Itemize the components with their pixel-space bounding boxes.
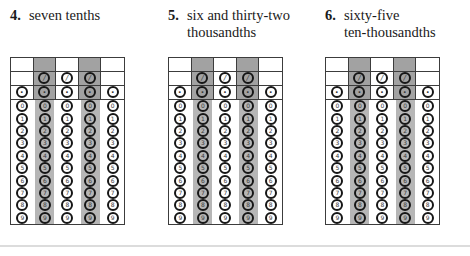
fraction-slash-bubble[interactable]: / <box>61 72 73 84</box>
digit-bubble-8[interactable]: 8 <box>39 199 51 211</box>
fraction-slash-bubble[interactable]: / <box>84 72 96 84</box>
decimal-point-bubble[interactable]: . <box>174 86 186 98</box>
digit-bubble-3[interactable]: 3 <box>16 137 28 149</box>
digit-bubble-1[interactable]: 1 <box>242 113 254 125</box>
digit-bubble-5[interactable]: 5 <box>422 162 434 174</box>
write-in-cell-c5[interactable] <box>259 58 282 71</box>
write-in-cell-c1[interactable] <box>169 58 192 71</box>
digit-bubble-7[interactable]: 7 <box>242 187 254 199</box>
digit-bubble-0[interactable]: 0 <box>265 100 277 112</box>
digit-bubble-7[interactable]: 7 <box>16 187 28 199</box>
fraction-slash-bubble[interactable]: / <box>38 72 50 84</box>
digit-bubble-6[interactable]: 6 <box>331 175 343 187</box>
digit-bubble-1[interactable]: 1 <box>61 113 73 125</box>
digit-bubble-2[interactable]: 2 <box>422 125 434 137</box>
digit-bubble-8[interactable]: 8 <box>354 199 366 211</box>
digit-bubble-9[interactable]: 9 <box>197 212 209 224</box>
digit-bubble-9[interactable]: 9 <box>331 212 343 224</box>
digit-bubble-5[interactable]: 5 <box>219 162 231 174</box>
digit-bubble-2[interactable]: 2 <box>16 125 28 137</box>
decimal-point-bubble[interactable]: . <box>61 86 73 98</box>
digit-bubble-7[interactable]: 7 <box>107 187 119 199</box>
digit-bubble-0[interactable]: 0 <box>376 100 388 112</box>
digit-bubble-8[interactable]: 8 <box>197 199 209 211</box>
decimal-point-bubble[interactable]: . <box>422 86 434 98</box>
write-in-cell-c1[interactable] <box>11 58 34 71</box>
digit-bubble-1[interactable]: 1 <box>107 113 119 125</box>
digit-bubble-3[interactable]: 3 <box>107 137 119 149</box>
digit-bubble-2[interactable]: 2 <box>331 125 343 137</box>
decimal-point-bubble[interactable]: . <box>376 86 388 98</box>
fraction-slash-bubble[interactable]: / <box>196 72 208 84</box>
digit-bubble-9[interactable]: 9 <box>174 212 186 224</box>
digit-bubble-6[interactable]: 6 <box>265 175 277 187</box>
digit-bubble-1[interactable]: 1 <box>16 113 28 125</box>
write-in-cell-c5[interactable] <box>416 58 439 71</box>
digit-bubble-3[interactable]: 3 <box>242 137 254 149</box>
write-in-cell-c4[interactable] <box>237 58 260 71</box>
digit-bubble-3[interactable]: 3 <box>354 137 366 149</box>
digit-bubble-1[interactable]: 1 <box>84 113 96 125</box>
digit-bubble-4[interactable]: 4 <box>39 150 51 162</box>
digit-bubble-2[interactable]: 2 <box>399 125 411 137</box>
write-in-cell-c5[interactable] <box>101 58 124 71</box>
digit-bubble-0[interactable]: 0 <box>399 100 411 112</box>
write-in-cell-c3[interactable] <box>56 58 79 71</box>
digit-bubble-7[interactable]: 7 <box>354 187 366 199</box>
digit-bubble-4[interactable]: 4 <box>354 150 366 162</box>
digit-bubble-2[interactable]: 2 <box>174 125 186 137</box>
digit-bubble-0[interactable]: 0 <box>331 100 343 112</box>
digit-bubble-7[interactable]: 7 <box>39 187 51 199</box>
decimal-point-bubble[interactable]: . <box>107 86 119 98</box>
digit-bubble-0[interactable]: 0 <box>61 100 73 112</box>
digit-bubble-1[interactable]: 1 <box>331 113 343 125</box>
digit-bubble-3[interactable]: 3 <box>39 137 51 149</box>
digit-bubble-0[interactable]: 0 <box>354 100 366 112</box>
digit-bubble-8[interactable]: 8 <box>16 199 28 211</box>
digit-bubble-9[interactable]: 9 <box>84 212 96 224</box>
digit-bubble-6[interactable]: 6 <box>242 175 254 187</box>
digit-bubble-4[interactable]: 4 <box>84 150 96 162</box>
digit-bubble-2[interactable]: 2 <box>219 125 231 137</box>
digit-bubble-8[interactable]: 8 <box>399 199 411 211</box>
digit-bubble-1[interactable]: 1 <box>422 113 434 125</box>
digit-bubble-0[interactable]: 0 <box>197 100 209 112</box>
fraction-slash-bubble[interactable]: / <box>353 72 365 84</box>
digit-bubble-6[interactable]: 6 <box>399 175 411 187</box>
digit-bubble-4[interactable]: 4 <box>219 150 231 162</box>
digit-bubble-8[interactable]: 8 <box>376 199 388 211</box>
decimal-point-bubble[interactable]: . <box>196 86 208 98</box>
digit-bubble-6[interactable]: 6 <box>39 175 51 187</box>
digit-bubble-5[interactable]: 5 <box>376 162 388 174</box>
digit-bubble-7[interactable]: 7 <box>174 187 186 199</box>
digit-bubble-6[interactable]: 6 <box>197 175 209 187</box>
write-in-cell-c3[interactable] <box>371 58 394 71</box>
digit-bubble-7[interactable]: 7 <box>422 187 434 199</box>
digit-bubble-7[interactable]: 7 <box>197 187 209 199</box>
write-in-cell-c1[interactable] <box>326 58 349 71</box>
digit-bubble-9[interactable]: 9 <box>376 212 388 224</box>
write-in-cell-c4[interactable] <box>394 58 417 71</box>
write-in-cell-c3[interactable] <box>214 58 237 71</box>
digit-bubble-5[interactable]: 5 <box>174 162 186 174</box>
digit-bubble-9[interactable]: 9 <box>61 212 73 224</box>
digit-bubble-7[interactable]: 7 <box>61 187 73 199</box>
digit-bubble-3[interactable]: 3 <box>265 137 277 149</box>
digit-bubble-4[interactable]: 4 <box>376 150 388 162</box>
digit-bubble-3[interactable]: 3 <box>61 137 73 149</box>
digit-bubble-5[interactable]: 5 <box>399 162 411 174</box>
decimal-point-bubble[interactable]: . <box>242 86 254 98</box>
digit-bubble-7[interactable]: 7 <box>331 187 343 199</box>
digit-bubble-4[interactable]: 4 <box>174 150 186 162</box>
digit-bubble-7[interactable]: 7 <box>376 187 388 199</box>
digit-bubble-4[interactable]: 4 <box>242 150 254 162</box>
digit-bubble-1[interactable]: 1 <box>354 113 366 125</box>
digit-bubble-4[interactable]: 4 <box>331 150 343 162</box>
digit-bubble-6[interactable]: 6 <box>422 175 434 187</box>
digit-bubble-0[interactable]: 0 <box>219 100 231 112</box>
digit-bubble-4[interactable]: 4 <box>422 150 434 162</box>
digit-bubble-8[interactable]: 8 <box>219 199 231 211</box>
digit-bubble-0[interactable]: 0 <box>422 100 434 112</box>
digit-bubble-7[interactable]: 7 <box>399 187 411 199</box>
digit-bubble-2[interactable]: 2 <box>197 125 209 137</box>
